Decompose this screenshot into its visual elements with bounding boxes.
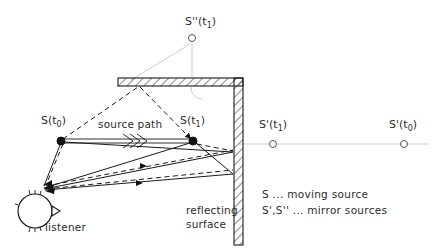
legend-line-moving-source: S ... moving source — [262, 188, 368, 200]
marker-mirror-prime-t0 — [401, 141, 408, 148]
right-angle-arc-icon — [190, 87, 202, 99]
label-source-t1: S(t1) — [180, 114, 205, 129]
reflecting-wall — [234, 78, 243, 245]
label-listener: listener — [45, 221, 86, 233]
wall-reflection-rays-solid — [44, 142, 233, 190]
listener-incoming-arrowheads — [43, 180, 55, 194]
marker-mirror-prime-t1 — [270, 141, 277, 148]
label-mirror-dprime-t1: S''(t1) — [185, 15, 216, 30]
marker-source-t1 — [189, 137, 197, 145]
ceiling-surface — [118, 78, 243, 86]
label-mirror-prime-t1: S'(t1) — [259, 118, 287, 133]
label-reflecting-surface-line2: surface — [186, 218, 226, 230]
diagram-canvas: S(t0) S(t1) S'(t1) S'(t0) S''(t1) source… — [0, 0, 443, 252]
label-source-path: source path — [98, 118, 162, 130]
ceiling-reflection-path — [63, 87, 191, 139]
label-reflecting-surface-line1: reflecting — [186, 204, 238, 216]
marker-source-t0 — [57, 137, 65, 145]
construction-diagonal-line — [131, 44, 190, 80]
legend-line-mirror-sources: S',S'' ... mirror sources — [262, 204, 387, 216]
label-mirror-prime-t0: S'(t0) — [389, 118, 417, 133]
marker-mirror-dprime-t1 — [189, 35, 196, 42]
direct-sound-rays — [44, 143, 190, 188]
acoustics-diagram: S(t0) S(t1) S'(t1) S'(t0) S''(t1) source… — [0, 0, 443, 252]
label-source-t0: S(t0) — [41, 114, 66, 129]
